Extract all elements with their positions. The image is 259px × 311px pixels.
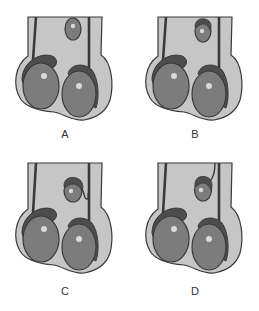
right-testis — [62, 224, 96, 270]
panel-d: D — [130, 155, 259, 310]
right-testis-highlight — [206, 83, 212, 89]
right-testis-highlight — [76, 83, 82, 89]
right-testis-highlight — [206, 236, 212, 242]
left-testis — [153, 216, 189, 262]
panel-label-b: B — [130, 128, 259, 140]
left-testis — [23, 63, 59, 109]
panel-label-a: A — [0, 128, 130, 140]
panel-b: B — [130, 0, 259, 155]
left-testis-highlight — [171, 226, 177, 232]
left-testis-highlight — [41, 73, 47, 79]
left-testis-highlight — [171, 73, 177, 79]
panel-a: A — [0, 0, 130, 155]
appendix-highlight — [69, 189, 73, 193]
appendix-highlight — [200, 29, 204, 33]
left-testis — [23, 216, 59, 262]
panel-label-d: D — [130, 285, 259, 297]
right-testis — [192, 71, 226, 117]
appendix-highlight — [199, 188, 203, 192]
right-testis — [62, 71, 96, 117]
appendix-testis — [65, 18, 81, 40]
right-testis — [192, 224, 226, 270]
left-testis-highlight — [41, 226, 47, 232]
right-testis-highlight — [76, 236, 82, 242]
panel-c: C — [0, 155, 130, 310]
panel-label-c: C — [0, 285, 130, 297]
left-testis — [153, 63, 189, 109]
appendix-highlight — [71, 24, 75, 28]
